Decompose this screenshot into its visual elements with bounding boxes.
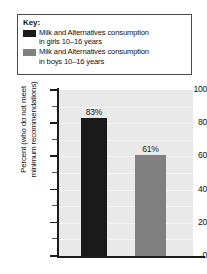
y-tick-100	[50, 89, 57, 91]
plot-area: 83% 61%	[59, 90, 193, 256]
y-tick-label-100: 100	[161, 84, 207, 94]
y-tick-label-60: 60	[161, 150, 207, 160]
legend-item-girls: Milk and Alternatives consumption in gir…	[23, 28, 187, 46]
bar-value-label-girls: 83%	[77, 107, 111, 117]
chart-legend: Key: Milk and Alternatives consumption i…	[17, 14, 192, 75]
y-tick-label-20: 20	[161, 217, 207, 227]
y-tick-80	[50, 122, 57, 124]
y-tick-minor-90	[52, 106, 57, 107]
bar-boys	[135, 155, 166, 256]
gridline	[59, 239, 193, 240]
gridline	[59, 206, 193, 207]
bar-girls	[81, 118, 107, 256]
y-tick-label-40: 40	[161, 184, 207, 194]
y-tick-20	[50, 222, 57, 224]
y-axis-line	[57, 88, 59, 258]
gridline	[59, 140, 193, 141]
bar-chart-figure: Key: Milk and Alternatives consumption i…	[0, 0, 207, 274]
legend-title: Key:	[23, 18, 187, 27]
y-tick-label-0: 0	[161, 250, 207, 260]
legend-item-boys: Milk and Alternatives consumption in boy…	[23, 47, 187, 65]
legend-label-boys: Milk and Alternatives consumption in boy…	[39, 47, 149, 65]
y-tick-minor-10	[52, 238, 57, 239]
y-tick-40	[50, 189, 57, 191]
y-tick-label-80: 80	[161, 117, 207, 127]
y-tick-0	[50, 255, 57, 257]
legend-swatch-girls	[23, 30, 36, 37]
gridline	[59, 173, 193, 174]
y-tick-minor-30	[52, 205, 57, 206]
legend-label-girls: Milk and Alternatives consumption in gir…	[39, 28, 149, 46]
y-tick-60	[50, 155, 57, 157]
y-axis-title: Percent (who do not meet minimum recomme…	[19, 55, 38, 205]
y-tick-minor-50	[52, 172, 57, 173]
y-tick-minor-70	[52, 139, 57, 140]
